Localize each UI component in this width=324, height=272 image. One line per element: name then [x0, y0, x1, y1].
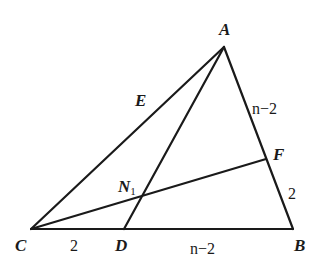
segment-ab: [224, 47, 293, 229]
length-cd: 2: [70, 237, 78, 254]
length-db: n−2: [190, 240, 215, 257]
triangle-diagram: A B C D E F N1 n−2 2 2 n−2: [0, 0, 324, 272]
segment-ad: [124, 47, 224, 229]
label-e: E: [134, 91, 146, 110]
label-f: F: [272, 145, 285, 164]
label-a: A: [218, 20, 230, 39]
label-d: D: [114, 236, 127, 255]
label-b: B: [293, 236, 305, 255]
length-af: n−2: [252, 100, 277, 117]
segment-cf: [31, 159, 266, 229]
label-n1: N1: [117, 177, 136, 197]
segment-ca: [31, 47, 224, 229]
length-fb: 2: [288, 185, 296, 202]
label-c: C: [15, 236, 27, 255]
